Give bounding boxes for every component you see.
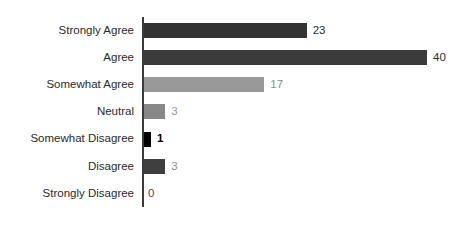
chart-title bbox=[22, 0, 322, 3]
bar-row: Strongly Agree23 bbox=[0, 17, 457, 44]
category-label-somewhat-disagree: Somewhat Disagree bbox=[30, 133, 142, 145]
bar-value-label: 23 bbox=[313, 25, 326, 37]
bar-somewhat-agree[interactable] bbox=[144, 77, 264, 92]
plot-area: Strongly Agree23Agree40Somewhat Agree17N… bbox=[0, 17, 457, 207]
bar-value-label: 1 bbox=[157, 133, 163, 145]
bar-container: 23 bbox=[144, 17, 326, 44]
category-label-agree: Agree bbox=[103, 52, 142, 64]
category-label-strongly-agree: Strongly Agree bbox=[59, 25, 142, 37]
bar-container: 0 bbox=[144, 180, 154, 207]
bar-strongly-agree[interactable] bbox=[144, 23, 307, 38]
bar-value-label: 3 bbox=[171, 161, 177, 173]
bar-value-label: 17 bbox=[270, 79, 283, 91]
bar-row: Neutral3 bbox=[0, 98, 457, 125]
bar-container: 3 bbox=[144, 98, 178, 125]
category-label-neutral: Neutral bbox=[97, 106, 142, 118]
bar-container: 1 bbox=[144, 126, 163, 153]
bar-value-label: 3 bbox=[171, 106, 177, 118]
category-label-somewhat-agree: Somewhat Agree bbox=[46, 79, 142, 91]
bar-container: 40 bbox=[144, 44, 446, 71]
bar-row: Strongly Disagree0 bbox=[0, 180, 457, 207]
bar-somewhat-disagree[interactable] bbox=[144, 132, 151, 147]
category-label-strongly-disagree: Strongly Disagree bbox=[43, 188, 142, 200]
bar-value-label: 0 bbox=[148, 188, 154, 200]
bar-row: Somewhat Agree17 bbox=[0, 71, 457, 98]
category-label-disagree: Disagree bbox=[88, 161, 142, 173]
bar-container: 3 bbox=[144, 153, 178, 180]
bar-row: Disagree3 bbox=[0, 153, 457, 180]
bar-neutral[interactable] bbox=[144, 104, 165, 119]
bar-container: 17 bbox=[144, 71, 283, 98]
bar-agree[interactable] bbox=[144, 50, 427, 65]
bar-chart: Strongly Agree23Agree40Somewhat Agree17N… bbox=[0, 0, 457, 225]
bar-row: Somewhat Disagree1 bbox=[0, 126, 457, 153]
bar-disagree[interactable] bbox=[144, 159, 165, 174]
bar-value-label: 40 bbox=[433, 52, 446, 64]
bar-row: Agree40 bbox=[0, 44, 457, 71]
